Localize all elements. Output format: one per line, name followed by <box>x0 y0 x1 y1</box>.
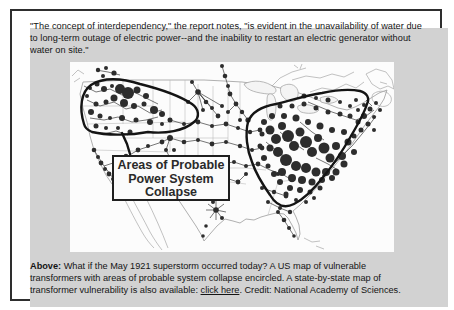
collapse-label-line: Collapse <box>114 186 228 200</box>
collapse-label-line: Power System <box>114 173 228 187</box>
collapse-label-line: Areas of Probable <box>114 159 228 173</box>
figure-caption: Above: What if the May 1921 superstorm o… <box>30 260 401 296</box>
caption-text: transformer vulnerability is also availa… <box>30 285 201 295</box>
click-here-link[interactable]: click here <box>201 285 240 295</box>
report-quote: "The concept of interdependency," the re… <box>30 20 422 56</box>
caption-line: Above: What if the May 1921 superstorm o… <box>30 260 401 272</box>
caption-text: What if the May 1921 superstorm occurred… <box>61 261 366 271</box>
quote-line: to long-term outage of electric power--a… <box>30 32 422 44</box>
collapse-label-box: Areas of Probable Power System Collapse <box>112 155 230 201</box>
caption-line: transformer vulnerability is also availa… <box>30 284 401 296</box>
caption-text: . Credit: National Academy of Sciences. <box>239 285 400 295</box>
page: { "quote": { "lines": [ "\"The concept o… <box>0 0 454 310</box>
caption-line: transformers with areas of probable syst… <box>30 272 401 284</box>
quote-line: water on site." <box>30 44 422 56</box>
caption-bold-label: Above: <box>30 261 61 271</box>
quote-line: "The concept of interdependency," the re… <box>30 20 422 32</box>
